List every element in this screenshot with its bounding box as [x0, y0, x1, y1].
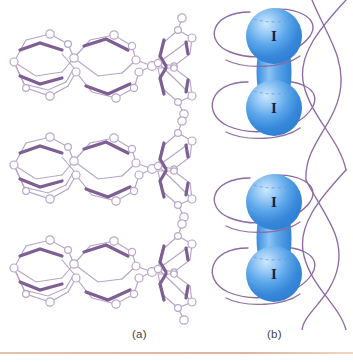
- caption-row: (a) (b): [0, 326, 353, 350]
- iodine-molecule-1: I I: [246, 8, 302, 136]
- macrocycle-stack-svg: [0, 0, 205, 330]
- macrocycle-row-1: [10, 14, 196, 118]
- macrocycle-row-2: [10, 117, 196, 221]
- atom-label-I-1a: I: [271, 28, 277, 44]
- caption-panel-b: (b): [267, 328, 282, 340]
- atom-label-I-2b: I: [271, 266, 277, 282]
- figure-root: I I I I (a) (b): [0, 0, 353, 362]
- atom-label-I-2a: I: [271, 194, 277, 210]
- atom-label-I-1b: I: [271, 100, 277, 116]
- iodine-stack-svg: I I I I: [200, 0, 353, 330]
- panel-a-molecular-structure: [0, 0, 205, 330]
- panel-b-iodine-molecules: I I I I: [200, 0, 353, 330]
- macrocycle-row-3: [10, 220, 196, 324]
- iodine-molecule-2: I I: [246, 174, 302, 302]
- bottom-divider-rule: [0, 352, 353, 354]
- caption-panel-a: (a): [132, 328, 147, 340]
